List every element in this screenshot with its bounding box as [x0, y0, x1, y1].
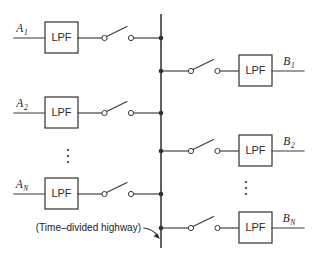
switch-contact-right-a1[interactable]: [128, 35, 133, 40]
lpf-box-label-a1: LPF: [51, 31, 71, 43]
port-label-b1-base: B: [283, 55, 290, 67]
input-ellipsis-dot-1: [67, 149, 69, 151]
diagram-canvas: LPF A1 LPF A2: [0, 0, 318, 259]
input-ellipsis-dot-2: [67, 155, 69, 157]
output-branch-b1: LPF B1: [159, 55, 304, 86]
input-ellipsis: [67, 149, 69, 163]
port-label-b2-sub: 2: [291, 141, 295, 150]
port-label-an-sub: N: [22, 184, 29, 193]
lpf-box-label-b1: LPF: [245, 64, 265, 76]
switch-blade-a2[interactable]: [107, 102, 128, 112]
port-label-b2-base: B: [283, 135, 290, 147]
switch-contact-right-bn[interactable]: [215, 225, 220, 230]
port-label-bn: BN: [283, 212, 297, 227]
switch-contact-right-b2[interactable]: [215, 148, 220, 153]
switch-contact-right-b1[interactable]: [215, 68, 220, 73]
input-ellipsis-dot-3: [67, 161, 69, 163]
port-label-an: AN: [15, 178, 30, 193]
port-label-bn-sub: N: [289, 218, 296, 227]
lpf-box-label-a2: LPF: [51, 106, 71, 118]
output-ellipsis-dot-1: [245, 181, 247, 183]
switch-blade-a1[interactable]: [107, 27, 128, 37]
output-ellipsis: [245, 181, 247, 195]
switch-contact-right-an[interactable]: [128, 191, 133, 196]
port-label-a2-sub: 2: [24, 103, 28, 112]
highway-caption: (Time–divided highway): [36, 222, 141, 233]
lpf-box-label-bn: LPF: [245, 221, 265, 233]
switch-blade-an[interactable]: [107, 183, 128, 193]
bus-junction-a2: [159, 111, 164, 116]
port-label-a2: A2: [15, 97, 28, 112]
bus-junction-a1: [159, 36, 164, 41]
bus-junction-an: [159, 192, 164, 197]
switch-blade-b2[interactable]: [193, 140, 214, 150]
input-branch-a2: LPF A2: [14, 97, 163, 128]
lpf-box-label-b2: LPF: [245, 144, 265, 156]
tdm-switch-diagram: LPF A1 LPF A2: [0, 0, 318, 259]
highway-caption-group: (Time–divided highway): [36, 222, 160, 239]
output-ellipsis-dot-3: [245, 193, 247, 195]
output-ellipsis-dot-2: [245, 187, 247, 189]
switch-blade-b1[interactable]: [193, 60, 214, 70]
lpf-box-label-an: LPF: [51, 187, 71, 199]
input-branch-a1: LPF A1: [14, 22, 163, 53]
port-label-a1: A1: [15, 22, 27, 37]
switch-contact-right-a2[interactable]: [128, 110, 133, 115]
output-branch-b2: LPF B2: [159, 135, 304, 166]
port-label-b1-sub: 1: [291, 61, 295, 70]
caption-pointer-arrowhead: [154, 233, 161, 239]
port-label-a1-sub: 1: [24, 28, 28, 37]
port-label-b2: B2: [283, 135, 295, 150]
port-label-bn-base: B: [283, 212, 290, 224]
port-label-b1: B1: [283, 55, 294, 70]
input-branch-an: LPF AN: [14, 178, 163, 209]
output-branch-bn: LPF BN: [159, 212, 304, 243]
switch-blade-bn[interactable]: [193, 217, 214, 227]
